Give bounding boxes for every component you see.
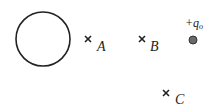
point-b-label: B (150, 40, 159, 54)
point-b-marker-icon (139, 36, 145, 42)
electric-field-diagram: A B C +qo (0, 0, 216, 108)
point-c-marker-icon (163, 90, 169, 96)
point-a-label: A (97, 40, 106, 54)
point-a-marker-icon (85, 36, 91, 42)
test-charge-label: +qo (185, 17, 203, 31)
conducting-sphere (16, 12, 70, 66)
charge-subscript: o (199, 22, 203, 31)
charge-sign: + (185, 16, 193, 30)
test-charge-dot (189, 36, 197, 44)
point-c-label: C (175, 93, 184, 107)
